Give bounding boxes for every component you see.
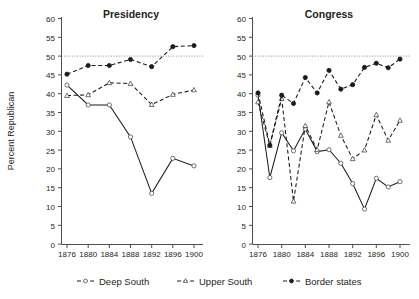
x-tick-1888: 1888 (320, 250, 338, 259)
open-triangle-icon (362, 148, 367, 152)
open-triangle-icon (350, 156, 355, 160)
presidency-series-group (65, 43, 197, 195)
legend-label-deep-south: Deep South (99, 276, 149, 287)
filled-circle-icon (291, 101, 295, 105)
filled-circle-icon (86, 63, 90, 67)
y-tick-25: 25 (46, 147, 55, 156)
filled-circle-icon (386, 66, 390, 70)
open-circle-icon (327, 148, 331, 152)
legend-item-upper-south[interactable]: Upper South (177, 276, 252, 287)
open-triangle-icon (398, 118, 403, 122)
legend-label-upper-south: Upper South (199, 276, 252, 287)
x-tick-1880: 1880 (273, 250, 291, 259)
congress-y-axis: 60 55 50 45 40 35 30 25 20 15 10 5 0 (237, 15, 252, 250)
y-tick-35: 35 (46, 109, 55, 118)
x-tick-1884: 1884 (100, 250, 118, 259)
x-tick-1884: 1884 (296, 250, 314, 259)
open-triangle-icon (374, 112, 379, 116)
filled-circle-icon (256, 91, 260, 95)
filled-circle-icon (150, 65, 154, 69)
y-tick-10: 10 (237, 203, 246, 212)
series-path (67, 83, 194, 105)
y-tick-45: 45 (237, 71, 246, 80)
y-tick-15: 15 (46, 184, 55, 193)
y-tick-30: 30 (46, 128, 55, 137)
open-triangle-icon (183, 279, 187, 283)
open-circle-icon (351, 181, 355, 185)
open-circle-icon (280, 131, 284, 135)
x-tick-1888: 1888 (122, 250, 140, 259)
open-circle-icon (374, 176, 378, 180)
legend-item-border-states[interactable]: Border states (283, 276, 362, 287)
filled-circle-icon (280, 93, 284, 97)
panel-congress: Congress 60 55 50 45 40 35 30 25 20 15 1… (237, 8, 410, 259)
filled-circle-icon (171, 45, 175, 49)
y-tick-0: 0 (51, 241, 56, 250)
y-tick-5: 5 (242, 222, 247, 231)
filled-circle-icon (65, 72, 69, 76)
legend-label-border-states: Border states (305, 276, 362, 287)
y-tick-40: 40 (237, 90, 246, 99)
x-tick-1892: 1892 (344, 250, 362, 259)
y-tick-50: 50 (237, 53, 246, 62)
congress-title: Congress (305, 8, 354, 20)
y-tick-60: 60 (46, 15, 55, 24)
x-tick-1896: 1896 (367, 250, 385, 259)
open-triangle-icon (291, 199, 296, 203)
x-tick-1896: 1896 (164, 250, 182, 259)
open-triangle-icon (128, 81, 133, 85)
filled-circle-icon (268, 143, 272, 147)
y-tick-40: 40 (46, 90, 55, 99)
presidency-series-border-states (65, 43, 196, 76)
x-tick-1876: 1876 (58, 250, 76, 259)
x-tick-1880: 1880 (79, 250, 97, 259)
y-tick-30: 30 (237, 128, 246, 137)
election-charts-figure: Percent Republican Presidency 60 55 50 4… (0, 0, 419, 299)
open-circle-icon (171, 156, 175, 160)
legend: Deep South Upper South Border states (77, 276, 362, 287)
open-circle-icon (84, 279, 88, 283)
filled-circle-icon (128, 57, 132, 61)
filled-circle-icon (398, 57, 402, 61)
y-tick-15: 15 (237, 184, 246, 193)
open-circle-icon (150, 191, 154, 195)
open-circle-icon (268, 175, 272, 179)
y-tick-0: 0 (242, 241, 247, 250)
y-tick-55: 55 (237, 34, 246, 43)
presidency-title: Presidency (103, 8, 159, 20)
open-triangle-icon (86, 92, 91, 96)
open-circle-icon (398, 180, 402, 184)
open-circle-icon (192, 164, 196, 168)
filled-circle-icon (339, 87, 343, 91)
congress-x-axis: 1876 1880 1884 1888 1892 1896 1900 (249, 245, 410, 260)
y-tick-20: 20 (237, 165, 246, 174)
filled-circle-icon (290, 279, 294, 283)
filled-circle-icon (192, 43, 196, 47)
open-triangle-icon (192, 87, 197, 91)
open-circle-icon (107, 103, 111, 107)
open-circle-icon (339, 161, 343, 165)
filled-circle-icon (362, 65, 366, 69)
open-circle-icon (386, 185, 390, 189)
presidency-series-deep-south (65, 83, 196, 195)
panel-presidency: Presidency 60 55 50 45 40 35 30 25 20 15… (46, 8, 203, 259)
open-triangle-icon (303, 123, 308, 127)
filled-circle-icon (374, 61, 378, 65)
presidency-x-axis: 1876 1880 1884 1888 1892 1896 1900 (58, 245, 203, 260)
y-tick-25: 25 (237, 147, 246, 156)
open-circle-icon (291, 149, 295, 153)
open-circle-icon (362, 207, 366, 211)
open-triangle-icon (327, 99, 332, 103)
y-tick-55: 55 (46, 34, 55, 43)
filled-circle-icon (351, 83, 355, 87)
x-tick-1900: 1900 (391, 250, 409, 259)
y-tick-20: 20 (46, 165, 55, 174)
open-circle-icon (65, 83, 69, 87)
y-tick-45: 45 (46, 71, 55, 80)
y-tick-35: 35 (237, 109, 246, 118)
filled-circle-icon (303, 75, 307, 79)
x-tick-1892: 1892 (143, 250, 161, 259)
filled-circle-icon (315, 91, 319, 95)
congress-series-group (256, 57, 403, 211)
legend-item-deep-south[interactable]: Deep South (77, 276, 149, 287)
